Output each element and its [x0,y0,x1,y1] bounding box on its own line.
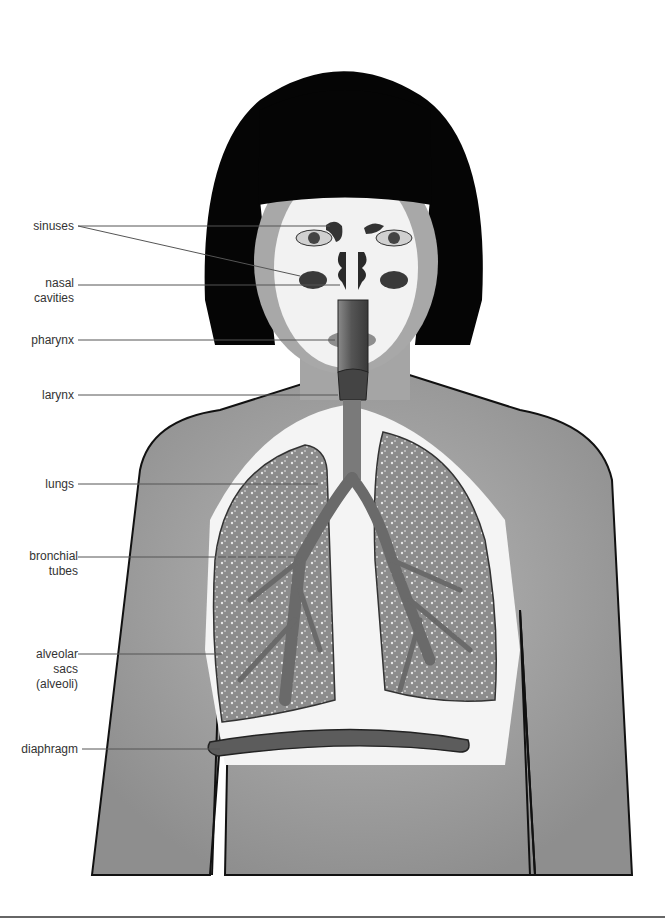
label-text: sacs [6,662,78,677]
label-text: alveolar [6,647,78,662]
label-text: larynx [2,388,74,403]
respiratory-diagram [0,0,665,922]
trachea [343,400,361,480]
maxillary-sinus-right [380,271,408,289]
label-text: lungs [2,477,74,492]
label-text: cavities [2,291,74,306]
label-text: sinuses [2,219,74,234]
label-text: tubes [6,564,78,579]
bangs [258,90,432,205]
label-sinuses: sinuses [2,219,74,234]
larynx-shape [338,369,368,400]
label-text: pharynx [2,333,74,348]
label-bronchial-tubes: bronchial tubes [6,549,78,579]
bottom-rule [0,916,665,918]
label-lungs: lungs [2,477,74,492]
label-text: diaphragm [6,742,78,757]
label-larynx: larynx [2,388,74,403]
label-text: (alveoli) [6,677,78,692]
pharynx-tube [338,300,368,372]
label-text: bronchial [6,549,78,564]
label-pharynx: pharynx [2,333,74,348]
maxillary-sinus-left [299,271,327,289]
label-diaphragm: diaphragm [6,742,78,757]
label-nasal-cavities: nasal cavities [2,276,74,306]
label-text: nasal [2,276,74,291]
label-alveolar-sacs: alveolar sacs (alveoli) [6,647,78,692]
